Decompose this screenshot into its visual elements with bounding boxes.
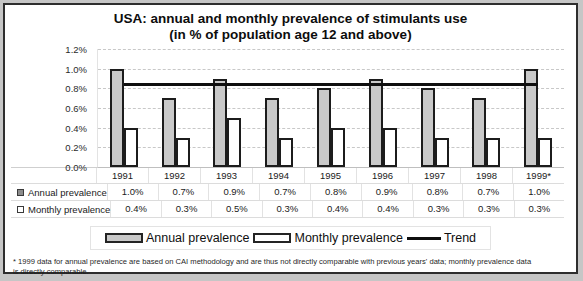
annual-bar-1995 bbox=[317, 88, 331, 167]
monthly-bar-1996 bbox=[383, 128, 397, 167]
gridline bbox=[98, 69, 564, 70]
row-label-annual: Annual prevalence bbox=[11, 184, 108, 200]
value-cell: 0.8% bbox=[311, 184, 362, 200]
value-cell: 0.8% bbox=[413, 184, 464, 200]
y-tick-label: 0.0% bbox=[65, 162, 87, 173]
chart-legend: Annual prevalenceMonthly prevalenceTrend bbox=[90, 226, 491, 250]
value-cell: 0.3% bbox=[414, 201, 464, 217]
y-tick-label: 1.0% bbox=[65, 63, 87, 74]
value-cell: 0.7% bbox=[463, 184, 514, 200]
trend-line bbox=[124, 83, 538, 86]
value-cell: 0.9% bbox=[362, 184, 413, 200]
annual-bar-1998 bbox=[472, 98, 486, 167]
annual-bar-1991 bbox=[110, 69, 124, 167]
monthly-bar-1993 bbox=[227, 118, 241, 167]
annual-bar-1997 bbox=[421, 88, 435, 167]
gridline bbox=[98, 167, 564, 168]
row-label-monthly: Monthly prevalence bbox=[11, 201, 111, 217]
annual-swatch-icon bbox=[105, 233, 143, 243]
legend-item-monthly: Monthly prevalence bbox=[253, 231, 402, 245]
value-cell: 0.3% bbox=[263, 201, 313, 217]
y-tick-label: 1.2% bbox=[65, 44, 87, 55]
value-cell: 0.3% bbox=[464, 201, 514, 217]
plot-area bbox=[97, 49, 564, 167]
footnote: * 1999 data for annual prevalence are ba… bbox=[13, 257, 568, 276]
value-cell: 0.9% bbox=[209, 184, 260, 200]
monthly-bar-1998 bbox=[486, 138, 500, 168]
year-cell: 1996 bbox=[357, 168, 409, 183]
year-cell: 1998 bbox=[461, 168, 513, 183]
monthly-bar-1991 bbox=[124, 128, 138, 167]
table-row: Monthly prevalence0.4%0.3%0.5%0.3%0.4%0.… bbox=[11, 200, 564, 217]
monthly-bar-1994 bbox=[279, 138, 293, 168]
footnote-line1: * 1999 data for annual prevalence are ba… bbox=[13, 257, 568, 267]
value-cell: 0.4% bbox=[313, 201, 363, 217]
annual-bar-1996 bbox=[369, 79, 383, 168]
annual-bar-1994 bbox=[265, 98, 279, 167]
table-row: Annual prevalence1.0%0.7%0.9%0.7%0.8%0.9… bbox=[11, 183, 564, 200]
value-cell: 0.3% bbox=[515, 201, 564, 217]
annual-bar-1992 bbox=[162, 98, 176, 167]
row-label-text: Monthly prevalence bbox=[28, 204, 110, 215]
footnote-line2: is directly comparable. bbox=[13, 267, 568, 277]
gridline bbox=[98, 49, 564, 50]
monthly-bar-1997 bbox=[435, 138, 449, 168]
value-cell: 1.0% bbox=[514, 184, 564, 200]
legend-label: Monthly prevalence bbox=[294, 231, 402, 245]
y-tick-label: 0.4% bbox=[65, 122, 87, 133]
y-tick-label: 0.6% bbox=[65, 103, 87, 114]
legend-label: Annual prevalence bbox=[146, 231, 250, 245]
y-axis-labels: 1.2%1.0%0.8%0.6%0.4%0.2%0.0% bbox=[11, 49, 97, 167]
y-tick-label: 0.8% bbox=[65, 83, 87, 94]
chart-figure: USA: annual and monthly prevalence of st… bbox=[0, 0, 583, 281]
value-cell: 0.4% bbox=[363, 201, 413, 217]
chart-title: USA: annual and monthly prevalence of st… bbox=[9, 11, 572, 43]
annual-marker-icon bbox=[17, 189, 24, 196]
chart-title-line2: (in % of population age 12 and above) bbox=[9, 27, 572, 43]
year-cell: 1991 bbox=[97, 168, 149, 183]
value-cell: 1.0% bbox=[108, 184, 159, 200]
monthly-marker-icon bbox=[17, 206, 24, 213]
annual-bar-1993 bbox=[213, 79, 227, 168]
legend-label: Trend bbox=[444, 231, 476, 245]
legend-item-annual: Annual prevalence bbox=[105, 231, 250, 245]
monthly-bar-1992 bbox=[176, 138, 190, 168]
chart-frame: USA: annual and monthly prevalence of st… bbox=[3, 3, 578, 274]
legend-item-line: Trend bbox=[407, 231, 476, 245]
value-cell: 0.7% bbox=[260, 184, 311, 200]
row-label-text: Annual prevalence bbox=[28, 187, 107, 198]
trend-line-swatch-icon bbox=[407, 237, 441, 240]
monthly-bar-1999 bbox=[538, 138, 552, 168]
monthly-swatch-icon bbox=[253, 233, 291, 243]
value-cell: 0.3% bbox=[162, 201, 212, 217]
plot-row: 1.2%1.0%0.8%0.6%0.4%0.2%0.0% bbox=[11, 49, 564, 167]
table-year-row: 199119921993199419951996199719981999* bbox=[11, 167, 564, 183]
y-tick-label: 0.2% bbox=[65, 142, 87, 153]
year-cell: 1992 bbox=[149, 168, 201, 183]
value-cell: 0.4% bbox=[111, 201, 161, 217]
year-cell: 1997 bbox=[409, 168, 461, 183]
year-cell: 1994 bbox=[253, 168, 305, 183]
value-cell: 0.5% bbox=[212, 201, 262, 217]
chart-title-line1: USA: annual and monthly prevalence of st… bbox=[9, 11, 572, 27]
monthly-bar-1995 bbox=[331, 128, 345, 167]
year-cell: 1999* bbox=[513, 168, 564, 183]
year-cell: 1993 bbox=[201, 168, 253, 183]
year-cell: 1995 bbox=[305, 168, 357, 183]
data-table: 199119921993199419951996199719981999*Ann… bbox=[11, 167, 564, 218]
value-cell: 0.7% bbox=[159, 184, 210, 200]
